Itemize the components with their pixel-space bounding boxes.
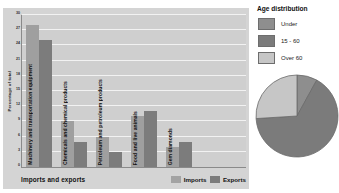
- bar-exports: [39, 40, 52, 167]
- y-axis-tick-label: 3: [18, 149, 20, 153]
- pie-chart-panel: Age distribution Under15 - 60Over 60: [253, 0, 322, 193]
- y-axis-title: Percentage of total: [5, 15, 14, 167]
- legend-entry: Exports: [210, 176, 246, 183]
- pie-legend-swatch-icon: [258, 35, 275, 47]
- y-axis-tick-label: 30: [16, 12, 20, 16]
- y-axis-tick-label: 18: [16, 73, 20, 77]
- legend-entry: Imports: [171, 176, 206, 183]
- bar-group: Machinery and transportation equipment: [26, 15, 52, 167]
- legend-label: Imports: [184, 176, 207, 183]
- y-axis-tick-label: 6: [18, 134, 20, 138]
- pie-legend-swatch-icon: [258, 18, 275, 30]
- y-axis-tick-label: 27: [16, 27, 20, 31]
- bar-chart-legend: ImportsExports: [171, 176, 246, 183]
- y-axis-tick-label: 15: [16, 88, 20, 92]
- pie-chart-legend: Under15 - 60Over 60: [258, 17, 330, 68]
- legend-swatch-icon: [210, 176, 220, 183]
- bar-exports: [109, 152, 122, 167]
- bar-exports: [74, 142, 87, 167]
- pie-slice: [256, 75, 297, 119]
- y-axis-tick-label: 21: [16, 58, 20, 62]
- pie-legend-entry: Over 60: [258, 51, 330, 65]
- bar-groups: Machinery and transportation equipmentCh…: [22, 15, 246, 167]
- bar-exports: [179, 142, 192, 167]
- y-axis-tick-label: 24: [16, 43, 20, 47]
- bar-exports: [144, 111, 157, 167]
- pie-legend-label: Under: [281, 21, 297, 27]
- x-axis-title: Imports and exports: [21, 176, 85, 183]
- category-label: Chemicals and chemical products: [62, 81, 68, 165]
- bar-group: Food and live animals: [131, 15, 157, 167]
- bar-chart-panel: Percentage of total 036912151821242730 M…: [3, 8, 249, 189]
- bar-chart-footer: Imports and exports ImportsExports: [21, 171, 246, 187]
- pie-svg: [255, 74, 339, 158]
- y-axis-tick-label: 9: [18, 119, 20, 123]
- bar-group: Petroleum and petroleum products: [96, 15, 122, 167]
- y-axis-tick-label: 0: [18, 164, 20, 168]
- category-label: Machinery and transportation equipment: [27, 64, 33, 165]
- pie-legend-label: 15 - 60: [281, 38, 300, 44]
- pie-legend-label: Over 60: [281, 55, 302, 61]
- pie-legend-entry: 15 - 60: [258, 34, 330, 48]
- y-axis-tick-label: 12: [16, 103, 20, 107]
- pie-chart-graphic: [255, 74, 339, 158]
- category-label: Food and live animals: [132, 111, 138, 165]
- category-label: Gem diamonds: [167, 128, 173, 165]
- pie-chart-title: Age distribution: [257, 5, 308, 12]
- legend-label: Exports: [223, 176, 246, 183]
- pie-legend-entry: Under: [258, 17, 330, 31]
- pie-legend-swatch-icon: [258, 52, 275, 64]
- category-label: Petroleum and petroleum products: [97, 79, 103, 165]
- bar-group: Gem diamonds: [166, 15, 192, 167]
- bar-chart-plot-area: 036912151821242730 Machinery and transpo…: [21, 15, 246, 168]
- legend-swatch-icon: [171, 176, 181, 183]
- bar-group: Chemicals and chemical products: [61, 15, 87, 167]
